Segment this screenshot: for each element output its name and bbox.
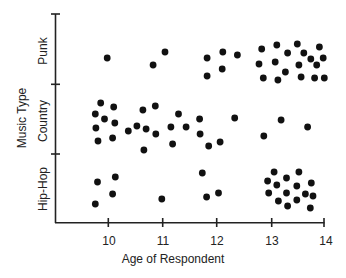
data-point-country — [134, 123, 141, 130]
data-point-hip-hop — [94, 179, 101, 186]
data-point-hip-hop — [308, 180, 315, 187]
data-point-hip-hop — [215, 190, 222, 197]
data-point-hip-hop — [283, 175, 290, 182]
data-point-country — [110, 104, 117, 111]
data-point-punk — [296, 62, 303, 69]
data-point-punk — [275, 77, 282, 84]
data-point-country — [231, 115, 238, 122]
x-tick-labels: 10 11 12 13 14 — [102, 234, 333, 248]
data-point-hip-hop — [284, 203, 291, 210]
data-point-country — [93, 125, 100, 132]
data-point-punk — [298, 74, 305, 81]
data-point-punk — [307, 56, 314, 63]
data-point-punk — [273, 42, 280, 49]
data-point-hip-hop — [265, 190, 272, 197]
data-point-hip-hop — [307, 205, 314, 212]
data-point-country — [197, 131, 204, 138]
data-point-country — [278, 117, 285, 124]
data-point-punk — [316, 44, 323, 51]
data-point-punk — [284, 50, 291, 57]
data-point-punk — [234, 52, 241, 59]
data-point-country — [109, 135, 116, 142]
data-point-punk — [311, 75, 318, 82]
data-point-country — [95, 138, 102, 145]
x-axis — [55, 218, 325, 227]
data-point-hip-hop — [271, 169, 278, 176]
band-label-hiphop: Hip-Hop — [36, 167, 50, 211]
data-point-country — [205, 143, 212, 150]
data-point-punk — [272, 59, 279, 66]
data-point-country — [143, 126, 150, 133]
data-point-hip-hop — [302, 191, 309, 198]
x-tick-14: 14 — [319, 234, 333, 248]
data-point-country — [168, 124, 175, 131]
data-point-punk — [320, 55, 327, 62]
data-point-punk — [260, 75, 267, 82]
data-points — [92, 41, 328, 212]
data-point-hip-hop — [199, 170, 206, 177]
data-point-country — [125, 128, 132, 135]
data-point-punk — [258, 46, 265, 53]
data-point-punk — [313, 62, 320, 69]
data-point-punk — [204, 73, 211, 80]
data-point-country — [304, 124, 311, 131]
data-point-punk — [294, 41, 301, 48]
x-tick-12: 12 — [210, 234, 224, 248]
data-point-punk — [150, 62, 157, 69]
data-point-country — [152, 103, 159, 110]
y-axis — [51, 14, 60, 223]
data-point-hip-hop — [273, 182, 280, 189]
data-point-country — [217, 139, 224, 146]
data-point-country — [196, 116, 203, 123]
y-axis-title: Music Type — [15, 87, 29, 148]
data-point-punk — [256, 61, 263, 68]
data-point-hip-hop — [283, 190, 290, 197]
data-point-country — [175, 111, 182, 118]
x-tick-10: 10 — [102, 234, 116, 248]
band-label-punk: Punk — [36, 36, 50, 64]
data-point-country — [92, 111, 99, 118]
data-point-hip-hop — [112, 174, 119, 181]
data-point-country — [183, 124, 190, 131]
data-point-country — [260, 133, 267, 140]
scatter-chart: 10 11 12 13 14 Age of Respondent Punk Co… — [0, 0, 346, 278]
data-point-country — [111, 120, 118, 127]
data-point-punk — [300, 50, 307, 57]
data-point-punk — [282, 69, 289, 76]
data-point-country — [169, 141, 176, 148]
x-tick-11: 11 — [157, 234, 170, 248]
data-point-punk — [219, 66, 226, 73]
data-point-hip-hop — [92, 201, 99, 208]
data-point-hip-hop — [158, 196, 165, 203]
data-point-country — [152, 131, 159, 138]
x-tick-13: 13 — [265, 234, 279, 248]
data-point-punk — [204, 55, 211, 62]
band-label-country: Country — [36, 100, 50, 142]
data-point-hip-hop — [293, 183, 300, 190]
data-point-hip-hop — [275, 198, 282, 205]
data-point-hip-hop — [109, 191, 116, 198]
data-point-punk — [321, 75, 328, 82]
data-point-country — [140, 107, 147, 114]
data-point-country — [97, 100, 104, 107]
x-axis-title: Age of Respondent — [122, 252, 225, 266]
data-point-hip-hop — [310, 193, 317, 200]
data-point-hip-hop — [296, 169, 303, 176]
data-point-country — [101, 116, 108, 123]
data-point-hip-hop — [293, 197, 300, 204]
data-point-punk — [219, 49, 226, 56]
data-point-country — [141, 147, 148, 154]
data-point-hip-hop — [264, 178, 271, 185]
data-point-punk — [162, 49, 169, 56]
data-point-hip-hop — [203, 194, 210, 201]
data-point-punk — [104, 55, 111, 62]
